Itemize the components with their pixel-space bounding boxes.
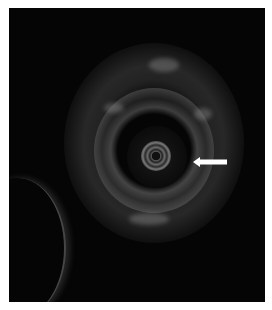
echo-spot — [129, 213, 169, 225]
echo-spot — [149, 58, 179, 72]
side-arc-artifact — [9, 178, 66, 302]
echo-spot — [104, 103, 124, 113]
catheter-ring — [141, 141, 171, 171]
echo-spot — [194, 108, 212, 120]
ultrasound-image — [9, 8, 265, 302]
arrow-left-icon — [193, 157, 227, 167]
